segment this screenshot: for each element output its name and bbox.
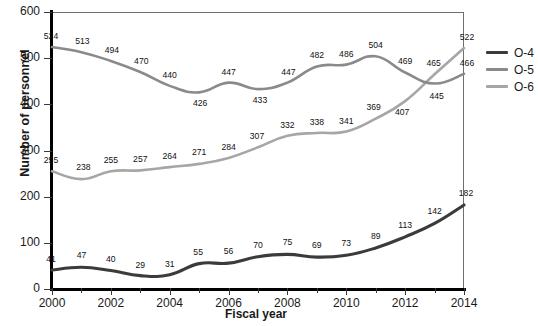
data-label: 482 [310,50,324,60]
data-label: 182 [459,188,473,198]
data-label: 70 [253,240,263,250]
data-label: 447 [281,67,295,77]
data-label: 56 [224,246,234,256]
data-label: 69 [312,240,322,250]
data-label: 407 [395,107,409,117]
data-label: 255 [104,155,118,165]
data-label: 257 [133,154,147,164]
data-label: 41 [46,254,56,264]
data-label: 470 [134,56,148,66]
data-label: 75 [283,237,293,247]
data-label: 264 [163,151,177,161]
data-label: 426 [193,98,207,108]
data-label: 40 [106,254,116,264]
data-label: 255 [44,155,58,165]
data-label: 369 [367,102,381,112]
data-label: 504 [369,40,383,50]
legend-item-o-6[interactable]: O-6 [486,78,534,95]
x-axis-title: Fiscal year [50,307,462,321]
data-label: 113 [398,220,412,230]
legend-swatch-icon [486,85,508,88]
data-label: 486 [339,49,353,59]
data-label: 284 [221,142,235,152]
legend-label: O-4 [514,46,534,60]
data-label: 341 [339,116,353,126]
data-label: 433 [253,95,267,105]
data-label: 73 [342,238,352,248]
data-label: 445 [429,91,443,101]
data-label: 307 [250,131,264,141]
data-label: 89 [371,231,381,241]
data-label: 29 [136,260,146,270]
legend-swatch-icon [486,51,508,54]
data-label: 469 [398,56,412,66]
legend-swatch-icon [486,68,508,71]
legend-item-o-4[interactable]: O-4 [486,44,534,61]
legend-label: O-6 [514,80,534,94]
data-label: 332 [280,120,294,130]
legend-item-o-5[interactable]: O-5 [486,61,534,78]
data-label: 440 [163,70,177,80]
line-chart: Number of personnel 0100200300400500600 … [0,0,538,326]
legend: O-4O-5O-6 [486,44,534,95]
data-label: 522 [460,32,474,42]
data-label: 465 [426,58,440,68]
data-label: 524 [44,31,58,41]
data-label: 338 [310,117,324,127]
data-label: 466 [460,58,474,68]
data-label: 513 [75,36,89,46]
data-label: 31 [165,259,175,269]
data-label: 47 [77,250,87,260]
data-label: 271 [192,147,206,157]
data-label: 494 [105,45,119,55]
data-label: 447 [221,67,235,77]
data-label: 142 [427,206,441,216]
data-label: 238 [76,162,90,172]
data-label: 55 [193,247,203,257]
legend-label: O-5 [514,63,534,77]
